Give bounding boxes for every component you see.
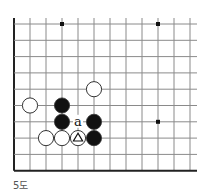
point-labels: a <box>74 114 82 129</box>
star-point-icon <box>156 120 160 124</box>
white-stone <box>22 98 37 113</box>
black-stone <box>54 114 69 129</box>
diagram-caption: 5도 <box>13 177 27 192</box>
star-point-icon <box>156 22 160 26</box>
black-stone <box>54 98 69 113</box>
white-stone <box>86 82 101 97</box>
black-stone <box>86 114 101 129</box>
white-stone <box>54 131 69 146</box>
go-board: a <box>0 0 210 192</box>
star-point-icon <box>60 22 64 26</box>
black-stone <box>86 131 101 146</box>
point-label: a <box>74 114 82 129</box>
grid-lines <box>14 18 197 171</box>
white-stone <box>38 131 53 146</box>
